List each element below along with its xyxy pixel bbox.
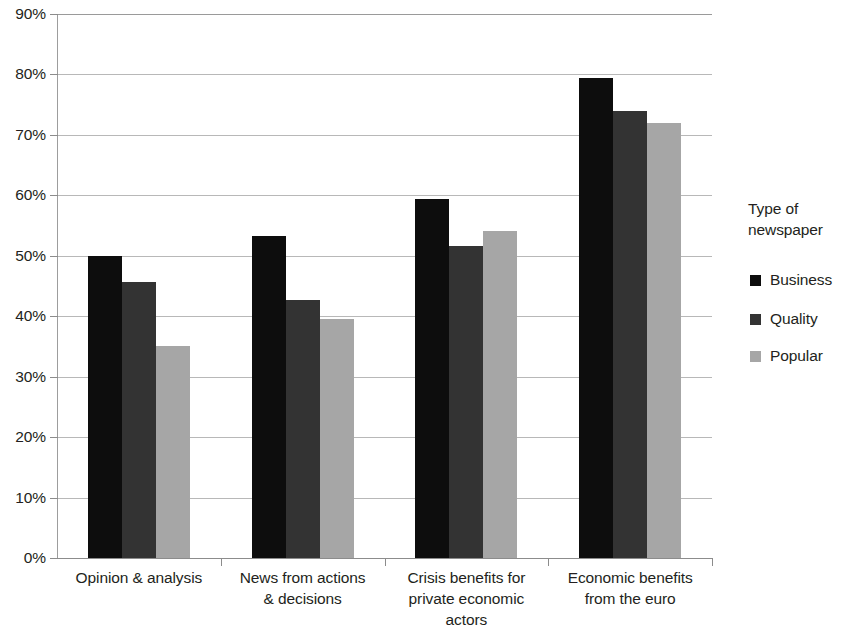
- bar: [156, 346, 190, 558]
- y-axis-tick-mark: [50, 437, 58, 438]
- legend-entry-label: Quality: [770, 311, 818, 327]
- x-axis-category-tick: [548, 558, 549, 566]
- x-axis-category-label: News from actions & decisions: [213, 567, 393, 609]
- y-axis-tick-mark: [50, 74, 58, 75]
- legend-color-swatch: [750, 314, 761, 325]
- bar: [579, 78, 613, 558]
- y-axis-tick-label: 90%: [0, 6, 46, 22]
- legend-entry: Popular: [750, 348, 823, 364]
- bar-chart-figure: 90%80%70%60%50%40%30%20%10%0% Opinion & …: [0, 0, 843, 637]
- gridline: [57, 14, 712, 15]
- y-axis-tick-label: 0%: [0, 550, 46, 566]
- y-axis-tick-mark: [50, 195, 58, 196]
- y-axis-tick-mark: [50, 377, 58, 378]
- x-axis-category-tick: [712, 558, 713, 566]
- y-axis-tick-label: 60%: [0, 187, 46, 203]
- y-axis-tick-mark: [50, 135, 58, 136]
- x-axis-category-tick: [385, 558, 386, 566]
- legend-title: Type of newspaper: [748, 198, 843, 240]
- legend-entry-label: Business: [770, 272, 832, 288]
- y-axis-tick-mark: [50, 316, 58, 317]
- bar: [613, 111, 647, 558]
- y-axis-tick-label: 30%: [0, 369, 46, 385]
- y-axis-tick-label: 40%: [0, 308, 46, 324]
- bar: [122, 282, 156, 558]
- y-axis-tick-mark: [50, 14, 58, 15]
- legend-entry: Quality: [750, 311, 818, 327]
- x-axis-category-label: Opinion & analysis: [49, 567, 229, 588]
- y-axis-tick-label: 10%: [0, 490, 46, 506]
- legend-entry: Business: [750, 272, 832, 288]
- y-axis-tick-mark: [50, 498, 58, 499]
- y-axis-tick-mark: [50, 558, 58, 559]
- bar: [88, 256, 122, 558]
- legend: Type of newspaper BusinessQualityPopular: [748, 198, 843, 240]
- bar: [286, 300, 320, 558]
- y-axis-tick-labels: 90%80%70%60%50%40%30%20%10%0%: [0, 0, 46, 637]
- bar: [647, 123, 681, 558]
- y-axis-tick-label: 50%: [0, 248, 46, 264]
- y-axis-tick-mark: [50, 256, 58, 257]
- y-axis-line: [57, 14, 58, 559]
- bar: [483, 231, 517, 558]
- bar: [252, 236, 286, 558]
- y-axis-tick-label: 80%: [0, 66, 46, 82]
- bar: [449, 246, 483, 558]
- y-axis-tick-label: 20%: [0, 429, 46, 445]
- legend-color-swatch: [750, 351, 761, 362]
- gridline: [57, 74, 712, 75]
- x-axis-category-label: Economic benefits from the euro: [540, 567, 720, 609]
- bar: [415, 199, 449, 558]
- x-axis-category-label: Crisis benefits for private economic act…: [377, 567, 557, 630]
- x-axis-category-tick: [221, 558, 222, 566]
- legend-entry-label: Popular: [770, 348, 823, 364]
- plot-area: [57, 14, 712, 558]
- bar: [320, 319, 354, 558]
- y-axis-tick-label: 70%: [0, 127, 46, 143]
- legend-color-swatch: [750, 275, 761, 286]
